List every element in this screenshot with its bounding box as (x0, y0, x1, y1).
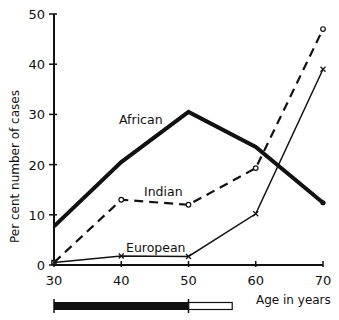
marker-circle-icon (321, 27, 326, 32)
x-tick-label: 70 (315, 273, 332, 288)
y-tick-label: 20 (28, 158, 45, 173)
marker-circle-icon (253, 166, 258, 171)
series-line-european (54, 69, 323, 262)
x-tick-label: 50 (180, 273, 197, 288)
marker-circle-icon (119, 197, 124, 202)
series-line-indian (54, 29, 323, 262)
marker-circle-icon (186, 202, 191, 207)
y-tick-label: 30 (28, 107, 45, 122)
x-tick-label: 40 (113, 273, 130, 288)
range-bar-open (189, 303, 233, 310)
x-axis-title: Age in years (256, 293, 331, 307)
marker-dot-icon (320, 200, 325, 205)
series-label-european: European (126, 240, 186, 255)
x-tick-label: 60 (247, 273, 264, 288)
y-axis-title: Per cent number of cases (8, 90, 22, 243)
line-chart: 010203040503040506070 African Indian Eur… (0, 0, 339, 320)
series-group (52, 27, 326, 265)
x-tick-label: 30 (46, 273, 63, 288)
y-tick-label: 0 (37, 258, 45, 273)
y-tick-label: 40 (28, 57, 45, 72)
series-label-african: African (119, 112, 163, 127)
range-bar-solid (54, 302, 189, 310)
y-tick-label: 50 (28, 7, 45, 22)
series-label-indian: Indian (144, 184, 183, 199)
series-line-african (54, 112, 323, 226)
age-range-bar (54, 299, 232, 313)
y-tick-label: 10 (28, 208, 45, 223)
